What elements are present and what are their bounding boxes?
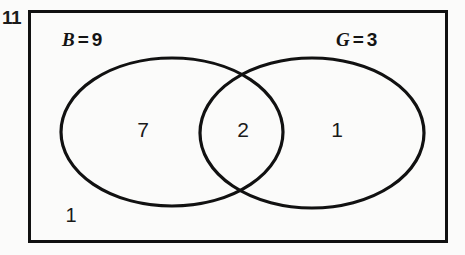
set-g-variable: G	[336, 29, 350, 50]
set-b-equals-sign: =	[78, 29, 89, 50]
region-count-outside-sets: 1	[56, 205, 86, 225]
set-g-total: 3	[367, 29, 378, 50]
region-count-g-only: 1	[322, 119, 352, 140]
set-g-equals-sign: =	[353, 29, 364, 50]
set-b-variable: B	[62, 29, 75, 50]
venn-diagram-figure: 11 B=9 G=3 7 2 1 1	[0, 0, 465, 255]
region-count-b-only: 7	[128, 119, 158, 140]
set-b-total: 9	[92, 29, 103, 50]
set-b-label: B=9	[62, 30, 102, 49]
region-count-intersection: 2	[228, 119, 258, 140]
set-g-label: G=3	[336, 30, 377, 49]
